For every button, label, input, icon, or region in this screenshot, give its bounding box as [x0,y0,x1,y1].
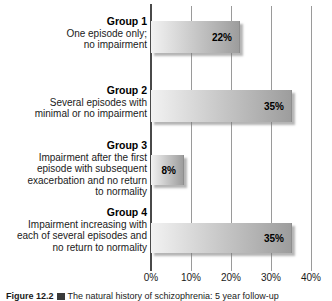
bar-group-4: 35% [151,223,291,253]
figure-caption: Figure 12.2The natural history of schizo… [6,291,332,301]
group-desc-4-line-1: Impairment increasing with [5,219,147,231]
bar-value-group-3: 8% [162,165,176,176]
x-tick-label-0: 0% [144,272,158,283]
group-desc-3-line-4: to normality [5,186,147,198]
bar-fill-group-2: 35% [151,90,292,122]
bar-fill-group-4: 35% [151,223,292,253]
group-desc-1-line-1: One episode only; [5,28,147,40]
x-tick-label-40: 40% [301,272,321,283]
group-desc-3-line-2: episode with subsequent [5,163,147,175]
category-label-group-3: Group 3 Impairment after the first episo… [5,140,147,198]
group-desc-3-line-1: Impairment after the first [5,152,147,164]
group-desc-2-line-1: Several episodes with [5,97,147,109]
group-heading-4: Group 4 [5,207,147,219]
bar-value-group-1: 22% [212,32,232,43]
category-label-group-2: Group 2 Several episodes with minimal or… [5,85,147,120]
caption-square-icon [57,293,65,300]
bar-group-1: 22% [151,21,239,53]
group-heading-2: Group 2 [5,85,147,97]
bar-fill-group-1: 22% [151,21,240,53]
bar-value-group-4: 35% [264,233,284,244]
gridline-40 [311,6,312,271]
bar-group-3: 8% [151,155,183,185]
group-desc-4-line-3: no return to normality [5,242,147,254]
bar-group-2: 35% [151,90,291,122]
group-heading-3: Group 3 [5,140,147,152]
category-label-group-1: Group 1 One episode only; no impairment [5,16,147,51]
group-heading-1: Group 1 [5,16,147,28]
x-tick-label-20: 20% [221,272,241,283]
figure-caption-text: The natural history of schizophrenia: 5 … [68,291,279,301]
group-desc-1-line-2: no impairment [5,39,147,51]
x-tick-label-10: 10% [181,272,201,283]
x-tick-label-30: 30% [261,272,281,283]
bar-fill-group-3: 8% [151,155,184,185]
group-desc-2-line-2: minimal or no impairment [5,108,147,120]
category-label-group-4: Group 4 Impairment increasing with each … [5,207,147,253]
group-desc-3-line-3: exacerbation and no return [5,175,147,187]
bar-value-group-2: 35% [264,101,284,112]
figure-caption-number: Figure 12.2 [6,291,54,301]
group-desc-4-line-2: each of several episodes and [5,230,147,242]
